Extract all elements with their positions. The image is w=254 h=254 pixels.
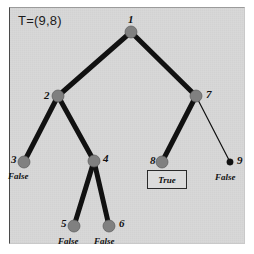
node-1[interactable] xyxy=(125,26,137,38)
node-label-7: 7 xyxy=(206,89,212,100)
tree-edges xyxy=(24,32,230,226)
node-5[interactable] xyxy=(68,220,80,232)
node-2[interactable] xyxy=(52,90,64,102)
node-6[interactable] xyxy=(103,220,115,232)
node-4[interactable] xyxy=(88,155,100,167)
node-value-8-box: True xyxy=(147,170,187,189)
edge-4-6 xyxy=(94,161,109,226)
node-value-8: True xyxy=(148,171,186,188)
tree-nodes xyxy=(18,26,233,232)
node-value-9: False xyxy=(215,173,236,182)
edge-2-3 xyxy=(24,96,58,162)
edge-7-9 xyxy=(196,96,230,162)
edge-1-2 xyxy=(58,32,131,96)
edge-7-8 xyxy=(162,96,196,162)
node-label-8: 8 xyxy=(150,155,156,166)
node-value-5: False xyxy=(58,237,79,246)
node-label-3: 3 xyxy=(11,154,17,165)
node-value-6: False xyxy=(94,237,115,246)
node-label-2: 2 xyxy=(44,90,50,101)
node-label-9: 9 xyxy=(237,155,243,166)
node-3[interactable] xyxy=(18,156,30,168)
node-label-4: 4 xyxy=(103,153,109,164)
tree-diagram-figure: T=(9,8) 1 2 7 3 4 8 9 5 6 False False Fa… xyxy=(0,0,254,254)
node-label-6: 6 xyxy=(119,218,125,229)
diagram-title: T=(9,8) xyxy=(18,13,62,28)
edge-1-7 xyxy=(131,32,196,96)
node-value-3: False xyxy=(8,172,29,181)
node-9[interactable] xyxy=(227,159,233,165)
edge-4-5 xyxy=(74,161,94,226)
node-8[interactable] xyxy=(156,156,168,168)
node-label-5: 5 xyxy=(61,218,67,229)
node-label-1: 1 xyxy=(128,14,134,25)
edge-2-4 xyxy=(58,96,94,161)
tree-graph-canvas xyxy=(0,0,254,254)
node-7[interactable] xyxy=(190,90,202,102)
